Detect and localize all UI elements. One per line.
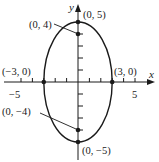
leader-bottom-focus	[40, 113, 76, 129]
y-axis-arrow-icon	[75, 4, 81, 12]
label-right-covertex: (3, 0)	[114, 66, 137, 78]
y-axis-label: y	[68, 1, 74, 13]
point-bottom-vertex	[76, 140, 81, 145]
ellipse-figure: y x −5 5 (0, 5) (0, 4) (−3, 0) (3, 0) (0…	[0, 0, 159, 162]
point-top-vertex	[76, 20, 81, 25]
label-bottom-focus: (0, −4)	[2, 106, 31, 118]
label-top-vertex: (0, 5)	[83, 9, 106, 21]
point-bottom-focus	[76, 128, 81, 133]
label-bottom-vertex: (0, −5)	[82, 145, 111, 157]
point-right-covertex	[110, 80, 115, 85]
x-axis-label: x	[148, 68, 154, 80]
point-top-focus	[76, 32, 81, 37]
x-tick-label-neg5: −5	[9, 89, 20, 100]
label-left-covertex: (−3, 0)	[2, 66, 31, 78]
point-left-covertex	[42, 80, 47, 85]
label-top-focus: (0, 4)	[29, 19, 52, 31]
ellipse-plot: y x −5 5 (0, 5) (0, 4) (−3, 0) (3, 0) (0…	[0, 0, 159, 162]
x-tick-label-pos5: 5	[132, 89, 137, 100]
leader-top-focus	[54, 24, 76, 33]
